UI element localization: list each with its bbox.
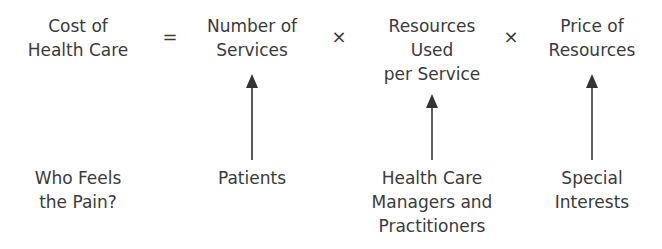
label-line: Health Care [372,166,493,190]
arrow-up-icon [426,94,438,160]
label-line: Practitioners [372,214,493,238]
arrow-up-icon [586,74,598,160]
special-interests-label: Special Interests [555,166,629,214]
label-line: Special [555,166,629,190]
arrow-up-icon [246,74,258,160]
label-line: the Pain? [35,190,122,214]
who-feels-the-pain-label: Who Feels the Pain? [35,166,122,214]
label-line: Patients [218,166,286,190]
patients-label: Patients [218,166,286,190]
label-line: Interests [555,190,629,214]
label-line: Managers and [372,190,493,214]
health-care-managers-label: Health Care Managers and Practitioners [372,166,493,238]
label-line: Who Feels [35,166,122,190]
